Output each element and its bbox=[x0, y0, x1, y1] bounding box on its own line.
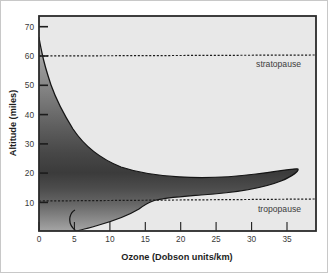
y-axis-title: Altitude (miles) bbox=[8, 90, 18, 156]
y-tick-label-10: 10 bbox=[25, 198, 35, 208]
y-axis-tick-labels: 70 60 50 40 30 20 10 bbox=[25, 22, 35, 208]
x-tick-label-0: 0 bbox=[37, 234, 42, 244]
x-tick-label-15: 15 bbox=[141, 234, 151, 244]
stratopause-label: stratopause bbox=[256, 59, 301, 69]
x-tick-label-30: 30 bbox=[247, 234, 257, 244]
chart-canvas: stratopause tropopause 70 60 50 40 30 bbox=[1, 1, 328, 273]
x-tick-label-20: 20 bbox=[176, 234, 186, 244]
ozone-altitude-chart: stratopause tropopause 70 60 50 40 30 bbox=[1, 1, 328, 273]
y-tick-label-50: 50 bbox=[25, 80, 35, 90]
x-axis-title: Ozone (Dobson units/km) bbox=[121, 252, 232, 262]
x-tick-label-5: 5 bbox=[72, 234, 77, 244]
y-tick-label-60: 60 bbox=[25, 51, 35, 61]
y-tick-label-70: 70 bbox=[25, 22, 35, 32]
y-tick-label-20: 20 bbox=[25, 168, 35, 178]
y-tick-label-40: 40 bbox=[25, 110, 35, 120]
x-tick-label-35: 35 bbox=[282, 234, 292, 244]
y-tick-label-30: 30 bbox=[25, 139, 35, 149]
figure-container: stratopause tropopause 70 60 50 40 30 bbox=[0, 0, 328, 273]
x-tick-label-10: 10 bbox=[105, 234, 115, 244]
x-tick-label-25: 25 bbox=[211, 234, 221, 244]
tropopause-label: tropopause bbox=[258, 204, 301, 214]
x-axis-tick-labels: 0 5 10 15 20 25 30 35 bbox=[37, 234, 292, 244]
